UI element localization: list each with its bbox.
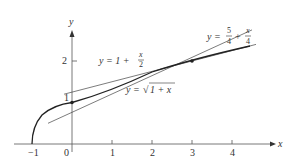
svg-text:2: 2 <box>139 60 143 69</box>
svg-text:4: 4 <box>246 37 250 46</box>
label-tangent-at-3: y = 5 4 + x 4 <box>206 26 251 46</box>
x-axis: −1 0 1 2 3 4 x <box>14 138 283 158</box>
svg-text:+: + <box>235 31 241 42</box>
svg-text:y =: y = <box>206 31 221 42</box>
x-tick-label: 2 <box>150 147 155 158</box>
label-sqrt-curve: y = √ 1 + x <box>125 83 175 95</box>
tangency-point-0 <box>70 101 74 105</box>
svg-text:5: 5 <box>227 26 231 35</box>
tangent-line-at-0 <box>48 30 252 123</box>
tangency-point-3 <box>190 59 194 63</box>
x-tick-label: 1 <box>110 147 115 158</box>
svg-text:y = 1 +: y = 1 + <box>98 55 129 66</box>
y-axis: 2 1 y <box>62 16 77 152</box>
svg-text:y =: y = <box>125 84 140 95</box>
x-tick-label: −1 <box>28 147 39 158</box>
x-tick-label: 4 <box>230 147 235 158</box>
x-axis-label: x <box>277 138 283 149</box>
svg-text:x: x <box>138 50 143 59</box>
x-tick-label: 0 <box>64 147 69 158</box>
y-axis-label: y <box>68 16 74 27</box>
svg-text:1 + x: 1 + x <box>150 84 172 95</box>
chart-canvas: −1 0 1 2 3 4 x 2 1 y y = 1 + x 2 y = √ 1… <box>0 0 286 166</box>
svg-text:√: √ <box>143 84 149 95</box>
x-tick-label: 3 <box>190 147 195 158</box>
x-axis-arrow-icon <box>270 142 276 147</box>
y-axis-arrow-icon <box>70 30 75 37</box>
svg-text:x: x <box>245 26 250 35</box>
svg-text:4: 4 <box>227 37 231 46</box>
label-tangent-at-0: y = 1 + x 2 <box>98 50 144 69</box>
y-tick-label: 2 <box>62 55 67 66</box>
